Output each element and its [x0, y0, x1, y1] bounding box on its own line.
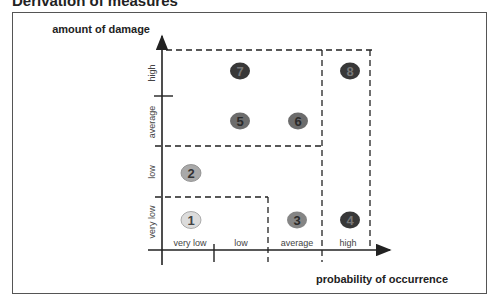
svg-text:7: 7	[236, 64, 243, 79]
risk-point-8: 8	[340, 63, 360, 80]
y-label-average: average	[147, 106, 157, 139]
risk-point-6: 6	[288, 113, 308, 130]
x-label-very-low: very low	[173, 238, 207, 248]
x-axis-title: probability of occurrence	[316, 273, 448, 285]
svg-text:2: 2	[187, 166, 194, 181]
risk-point-2: 2	[181, 165, 201, 182]
svg-text:3: 3	[293, 213, 300, 228]
x-label-average: average	[281, 238, 314, 248]
y-label-high: high	[147, 64, 157, 81]
svg-text:5: 5	[236, 114, 243, 129]
svg-text:4: 4	[346, 213, 354, 228]
risk-point-7: 7	[230, 63, 250, 80]
region-boundaries	[155, 50, 372, 262]
x-label-low: low	[234, 238, 248, 248]
y-label-very-low: very low	[147, 205, 157, 239]
y-axis-title: amount of damage	[52, 23, 150, 35]
risk-point-4: 4	[340, 212, 360, 229]
risk-point-5: 5	[230, 113, 250, 130]
risk-point-3: 3	[287, 212, 307, 229]
y-label-low: low	[147, 165, 157, 179]
risk-matrix-diagram: high average low very low very low low a…	[0, 0, 498, 307]
svg-text:1: 1	[187, 213, 194, 228]
svg-text:8: 8	[346, 64, 353, 79]
svg-text:6: 6	[294, 114, 301, 129]
x-label-high: high	[339, 238, 356, 248]
risk-point-1: 1	[181, 212, 201, 229]
